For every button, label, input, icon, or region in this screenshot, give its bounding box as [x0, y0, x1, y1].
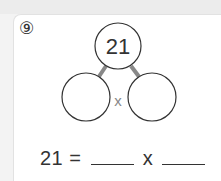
equals-sign: = — [69, 147, 81, 169]
answer-blank-1[interactable] — [91, 146, 134, 165]
left-connector — [98, 66, 106, 78]
equation: 21 = x — [40, 146, 208, 170]
right-answer-circle[interactable] — [128, 73, 176, 121]
equation-left: 21 — [40, 147, 63, 169]
equation-operator: x — [143, 147, 154, 169]
right-connector — [131, 66, 140, 78]
multiply-symbol: x — [114, 92, 122, 109]
top-value: 21 — [106, 34, 130, 59]
left-answer-circle[interactable] — [62, 73, 110, 121]
answer-blank-2[interactable] — [162, 146, 205, 165]
